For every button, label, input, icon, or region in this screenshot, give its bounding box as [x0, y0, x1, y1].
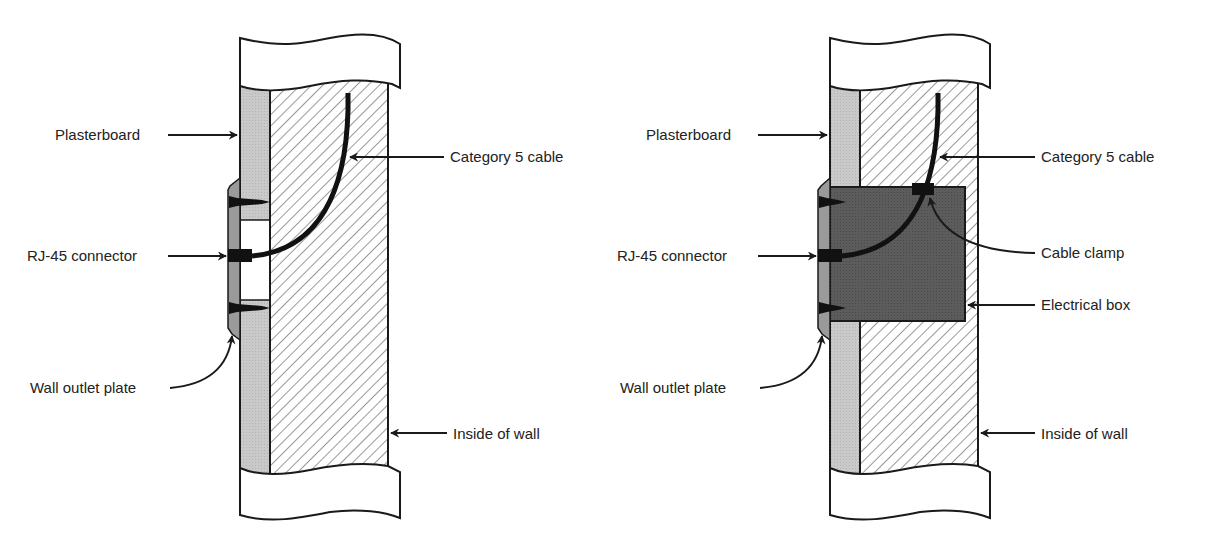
rj45-connector	[818, 249, 842, 262]
wall-top-break	[240, 35, 400, 91]
label-inside-of-wall: Inside of wall	[1041, 425, 1128, 442]
wall-diagram-with-electrical-box: Plasterboard Category 5 cable Cable clam…	[617, 35, 1154, 520]
label-plasterboard: Plasterboard	[646, 126, 731, 143]
diagram-canvas: Plasterboard Category 5 cable RJ-45 conn…	[0, 0, 1210, 550]
label-wall-outlet-plate: Wall outlet plate	[620, 379, 726, 396]
label-wall-outlet-plate: Wall outlet plate	[30, 379, 136, 396]
wall-diagram-without-box: Plasterboard Category 5 cable RJ-45 conn…	[27, 35, 563, 520]
label-cable-clamp: Cable clamp	[1041, 244, 1124, 261]
label-category-5-cable: Category 5 cable	[450, 148, 563, 165]
label-rj45-connector: RJ-45 connector	[617, 247, 727, 264]
label-electrical-box: Electrical box	[1041, 296, 1131, 313]
cable-clamp	[912, 183, 934, 195]
label-inside-of-wall: Inside of wall	[453, 425, 540, 442]
label-plasterboard: Plasterboard	[55, 126, 140, 143]
label-category-5-cable: Category 5 cable	[1041, 148, 1154, 165]
rj45-connector	[228, 249, 252, 262]
inside-of-wall	[270, 80, 388, 480]
label-rj45-connector: RJ-45 connector	[27, 247, 137, 264]
wall-top-break	[830, 35, 990, 91]
